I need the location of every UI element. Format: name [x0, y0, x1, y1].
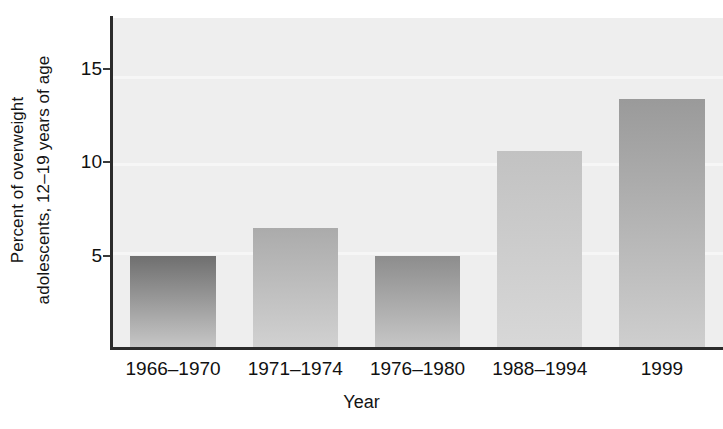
- plot-area: [112, 18, 723, 350]
- x-tick-label: 1976–1980: [356, 358, 478, 380]
- y-tick-label: 10: [56, 152, 102, 171]
- x-tick-label: 1988–1994: [479, 358, 601, 380]
- x-axis-title: Year: [0, 392, 723, 413]
- bar: [497, 151, 583, 350]
- x-tick-label: 1966–1970: [112, 358, 234, 380]
- x-axis-line: [110, 347, 723, 350]
- bar: [375, 256, 461, 350]
- y-axis-title-line1: Percent of overweight: [5, 56, 31, 305]
- y-tick-label: 15: [56, 59, 102, 78]
- chart-figure: Percent of overweight adolescents, 12–19…: [0, 0, 723, 429]
- y-tick-label: 5: [56, 246, 102, 265]
- y-axis-title-line2: adolescents, 12–19 years of age: [31, 56, 57, 305]
- bar: [130, 256, 216, 350]
- x-tick-label: 1971–1974: [234, 358, 356, 380]
- x-tick-label: 1999: [601, 358, 723, 380]
- y-axis-line: [110, 16, 113, 350]
- bar: [619, 99, 705, 350]
- y-tick-label-group: 5 10 15: [56, 0, 102, 360]
- bar: [253, 228, 339, 350]
- y-axis-title: Percent of overweight adolescents, 12–19…: [0, 0, 62, 360]
